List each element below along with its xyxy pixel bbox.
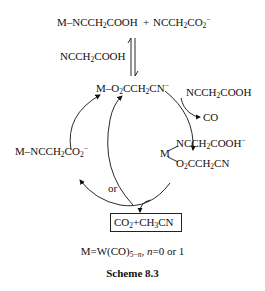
scheme-caption: Scheme 8.3 <box>0 267 265 279</box>
left-species: M–NCCH2CO2− <box>15 145 88 157</box>
equilibrium-reagent: NCCH2COOH <box>60 50 125 62</box>
intermediate-1: M–O2CCH2CN− <box>96 82 169 94</box>
byproduct-co: CO <box>203 111 218 123</box>
intermediate-2-bottom-ligand: O2CCH2CN <box>176 157 229 169</box>
metal-definition: M=W(CO)5−n, n=0 or 1 <box>0 245 265 257</box>
top-reactant-right: NCCH2CO2− <box>153 16 211 28</box>
reagent-in: NCCH2COOH <box>186 86 251 98</box>
products: CO2+CH3CN <box>114 216 174 228</box>
intermediate-2-top-ligand: NCCH2COOH− <box>176 137 246 149</box>
or-label: or <box>108 182 117 194</box>
top-reactant-left: M–NCCH2COOH <box>57 16 138 28</box>
plus-sign: + <box>143 16 149 28</box>
